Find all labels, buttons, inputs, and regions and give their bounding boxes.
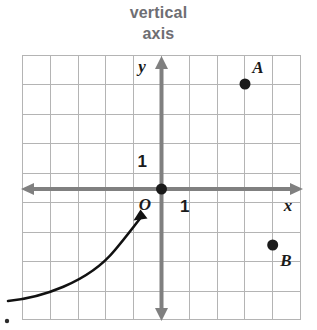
point-b: B (267, 240, 291, 271)
x-axis-label: x (283, 196, 293, 215)
coordinate-plane-figure: vertical axis (0, 0, 317, 330)
point-a-dot (240, 79, 251, 90)
graph-canvas: 1 1 y x O A B (0, 0, 317, 330)
x-unit-tick-label: 1 (180, 197, 189, 216)
y-axis-label: y (136, 57, 146, 76)
point-b-label: B (279, 251, 291, 270)
point-a-label: A (251, 58, 263, 77)
point-b-dot (267, 240, 278, 251)
origin-point (156, 184, 167, 195)
scan-speck (5, 319, 9, 323)
y-unit-tick-label: 1 (138, 152, 147, 171)
